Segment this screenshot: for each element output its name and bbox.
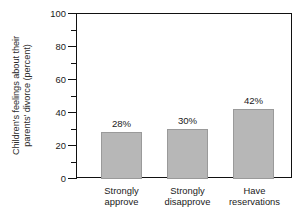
y-axis-title-line-1: Children's feelings about their [11,36,22,155]
x-label-line-1: Strongly [86,185,157,196]
x-category-label-strongly-disapprove: Strongly disapprove [151,185,224,208]
y-tick-label-100: 100 [36,9,66,18]
y-tick-label-80: 80 [36,42,66,51]
x-category-label-have-reservations: Have reservations [218,185,291,208]
x-label-line-2: disapprove [151,196,224,207]
y-tick-major-0 [68,178,77,179]
bar-value-strongly-disapprove: 30% [157,116,218,126]
x-category-label-strongly-approve: Strongly approve [86,185,157,208]
bar-value-strongly-approve: 28% [91,119,152,129]
x-label-line-2: reservations [218,196,291,207]
y-axis-title: Children's feelings about their parents'… [2,13,42,178]
bar-strongly-approve [101,132,142,179]
y-axis-title-line-2: parents' divorce (percent) [22,44,33,147]
y-tick-label-20: 20 [36,141,66,150]
bar-have-reservations [233,109,274,179]
bar-strongly-disapprove [167,129,208,180]
y-tick-label-0: 0 [36,174,66,183]
x-label-line-2: approve [86,196,157,207]
x-label-line-1: Strongly [151,185,224,196]
bar-value-have-reservations: 42% [223,96,284,106]
x-label-line-1: Have [218,185,291,196]
y-tick-label-60: 60 [36,75,66,84]
y-tick-label-40: 40 [36,108,66,117]
bar-chart-figure: Children's feelings about their parents'… [0,0,304,222]
